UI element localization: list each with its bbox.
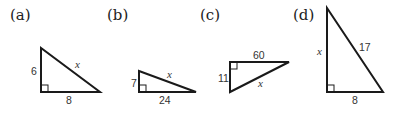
panel-d-label: (d) (293, 6, 314, 24)
triangle-c-top-side-label: 60 (253, 49, 265, 61)
panel-b-label: (b) (107, 6, 128, 24)
triangle-a-left-side-label: 6 (31, 65, 37, 77)
triangle-a-hypotenuse-label: x (74, 58, 80, 70)
right-angle-marker-b (139, 85, 146, 92)
triangle-b-left-side-label: 7 (131, 77, 137, 89)
triangle-a-bottom-side-label: 8 (66, 94, 72, 106)
triangle-d-hypotenuse-label: 17 (359, 41, 371, 53)
right-angle-marker-a (41, 85, 48, 92)
triangle-d-left-side-label: x (316, 45, 322, 57)
triangle-b-hypotenuse-label: x (166, 68, 172, 80)
panel-a-label: (a) (10, 6, 31, 24)
panel-b: (b) 7 24 x (107, 6, 196, 106)
right-triangles-figure: (a) 6 8 x (b) 7 24 x (c) 11 60 x (d) x 8… (0, 0, 404, 131)
panel-d: (d) x 8 17 (293, 6, 383, 106)
triangle-d (327, 8, 383, 92)
triangle-a (41, 48, 100, 92)
panel-c-label: (c) (200, 6, 220, 24)
right-angle-marker-d (327, 85, 334, 92)
triangle-c-hypotenuse-label: x (257, 77, 263, 89)
panel-c: (c) 11 60 x (200, 6, 289, 92)
triangle-d-bottom-side-label: 8 (352, 94, 358, 106)
triangle-c-left-side-label: 11 (218, 72, 229, 84)
right-angle-marker-c (230, 62, 237, 69)
triangle-b-bottom-side-label: 24 (159, 94, 171, 106)
panel-a: (a) 6 8 x (10, 6, 100, 106)
